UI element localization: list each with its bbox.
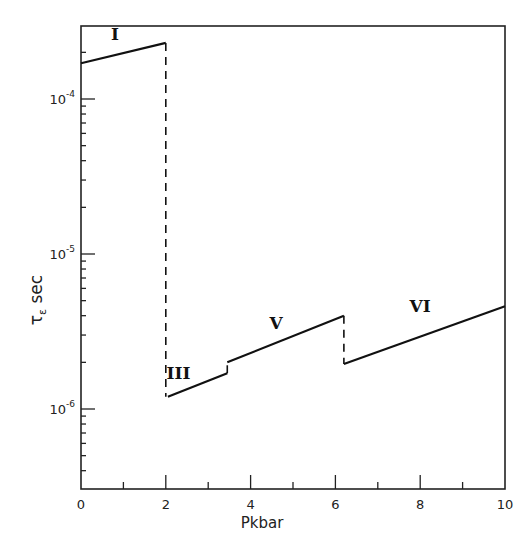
- x-tick-label: 6: [331, 497, 339, 512]
- x-tick-label: 4: [246, 497, 254, 512]
- chart: 10-610-510-4 0246810 IIIIVVI Pkbar τε se…: [0, 0, 532, 553]
- y-axis-ticks: 10-610-510-4: [49, 52, 95, 470]
- region-label-III: III: [167, 363, 191, 383]
- series-line-V: [227, 316, 344, 363]
- region-labels: IIIIVVI: [111, 24, 431, 383]
- x-axis-ticks: 0246810: [77, 475, 513, 512]
- x-tick-label: 0: [77, 497, 85, 512]
- plot-frame: [81, 26, 505, 489]
- data-series: [81, 43, 505, 397]
- series-line-I: [81, 43, 166, 63]
- region-label-VI: VI: [409, 296, 431, 316]
- x-tick-label: 8: [416, 497, 424, 512]
- x-tick-label: 2: [162, 497, 170, 512]
- region-label-I: I: [111, 24, 119, 44]
- y-axis-label-unit: sec: [26, 275, 46, 304]
- plot-border: [81, 26, 505, 489]
- y-axis-label-symbol: τ: [26, 315, 46, 325]
- x-tick-label: 10: [497, 497, 514, 512]
- y-tick-label: 10-4: [49, 89, 75, 107]
- x-axis-label: Pkbar: [241, 514, 284, 532]
- region-label-V: V: [268, 313, 283, 333]
- y-tick-label: 10-6: [49, 399, 75, 417]
- phase-transitions: [166, 43, 344, 397]
- svg-text:τε sec: τε sec: [26, 275, 49, 325]
- y-axis-label: τε sec: [26, 275, 49, 325]
- y-tick-label: 10-5: [49, 244, 75, 262]
